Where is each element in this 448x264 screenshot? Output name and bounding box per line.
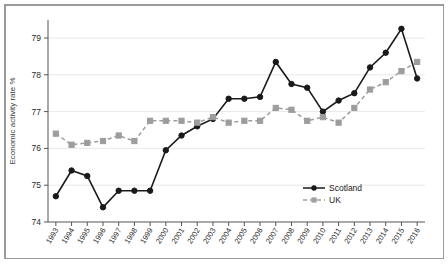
legend-marker-scotland xyxy=(311,185,316,190)
x-tick-label-2001: 2001 xyxy=(170,226,187,245)
x-tick-label-2013: 2013 xyxy=(358,226,375,245)
data-point-uk-2008 xyxy=(289,107,294,112)
data-point-uk-2015 xyxy=(399,69,404,74)
legend-item-uk[interactable]: UK xyxy=(303,195,341,205)
x-tick-label-2010: 2010 xyxy=(311,226,328,245)
data-point-scotland-2013 xyxy=(367,65,372,70)
data-point-scotland-1993 xyxy=(53,194,58,199)
x-tick-label-1995: 1995 xyxy=(75,226,92,245)
x-tick-label-2005: 2005 xyxy=(232,226,249,245)
data-point-scotland-2009 xyxy=(304,85,309,90)
data-point-uk-2014 xyxy=(383,80,388,85)
data-point-uk-1996 xyxy=(100,138,105,143)
data-point-scotland-2000 xyxy=(163,148,168,153)
data-point-uk-1995 xyxy=(85,140,90,145)
series-scotland xyxy=(53,26,420,210)
data-point-scotland-2014 xyxy=(383,50,388,55)
data-point-uk-2011 xyxy=(336,120,341,125)
data-point-scotland-2006 xyxy=(257,94,262,99)
x-tick-label-2015: 2015 xyxy=(390,226,407,245)
x-tick-label-1997: 1997 xyxy=(107,226,124,245)
data-point-scotland-2008 xyxy=(289,81,294,86)
data-point-scotland-2012 xyxy=(352,91,357,96)
line-chart: 747576777879Economic activity rate %1993… xyxy=(0,0,448,264)
data-point-uk-2004 xyxy=(226,120,231,125)
data-point-scotland-1996 xyxy=(100,205,105,210)
data-point-scotland-2010 xyxy=(320,109,325,114)
data-point-uk-2012 xyxy=(352,105,357,110)
data-point-uk-1999 xyxy=(148,118,153,123)
data-point-scotland-1998 xyxy=(132,188,137,193)
data-point-uk-2007 xyxy=(273,105,278,110)
chart-figure: 747576777879Economic activity rate %1993… xyxy=(0,0,448,264)
y-tick-label-74: 74 xyxy=(32,217,42,227)
data-point-scotland-2015 xyxy=(399,26,404,31)
data-point-scotland-2011 xyxy=(336,98,341,103)
y-axis: 747576777879 xyxy=(32,20,48,227)
data-point-scotland-2007 xyxy=(273,59,278,64)
data-point-scotland-1994 xyxy=(69,168,74,173)
data-point-uk-2003 xyxy=(210,115,215,120)
x-tick-label-2002: 2002 xyxy=(185,226,202,245)
x-tick-label-1993: 1993 xyxy=(44,226,61,245)
y-tick-label-76: 76 xyxy=(32,143,42,153)
data-point-uk-1998 xyxy=(132,138,137,143)
data-point-uk-2016 xyxy=(415,59,420,64)
series-line-uk xyxy=(56,62,417,145)
y-tick-label-79: 79 xyxy=(32,33,42,43)
data-point-scotland-2001 xyxy=(179,133,184,138)
x-tick-label-2007: 2007 xyxy=(264,226,281,245)
data-point-scotland-1995 xyxy=(85,173,90,178)
series-line-scotland xyxy=(56,29,417,207)
series-uk xyxy=(53,59,419,147)
legend-marker-uk xyxy=(311,197,316,202)
legend-item-scotland[interactable]: Scotland xyxy=(303,183,362,193)
data-point-uk-2006 xyxy=(257,118,262,123)
legend-label-uk: UK xyxy=(329,195,341,205)
x-tick-label-2003: 2003 xyxy=(201,226,218,245)
y-tick-label-75: 75 xyxy=(32,180,42,190)
x-tick-label-2004: 2004 xyxy=(217,226,234,245)
chart-legend: ScotlandUK xyxy=(303,183,362,205)
x-tick-label-2009: 2009 xyxy=(295,226,312,245)
x-axis: 1993199419951996199719981999200020012002… xyxy=(44,222,425,245)
x-tick-label-2014: 2014 xyxy=(374,226,391,245)
data-point-uk-2010 xyxy=(320,115,325,120)
data-point-uk-1997 xyxy=(116,133,121,138)
data-point-uk-2013 xyxy=(367,87,372,92)
y-tick-label-78: 78 xyxy=(32,70,42,80)
data-point-uk-1993 xyxy=(53,131,58,136)
data-point-scotland-2016 xyxy=(414,76,419,81)
data-point-scotland-2005 xyxy=(242,96,247,101)
data-point-uk-1994 xyxy=(69,142,74,147)
gridlines xyxy=(48,38,425,185)
data-point-scotland-2004 xyxy=(226,96,231,101)
data-point-uk-2005 xyxy=(242,118,247,123)
x-tick-label-2012: 2012 xyxy=(342,226,359,245)
x-tick-label-1996: 1996 xyxy=(91,226,108,245)
data-point-uk-2001 xyxy=(179,118,184,123)
x-tick-label-2016: 2016 xyxy=(405,226,422,245)
x-tick-label-2008: 2008 xyxy=(280,226,297,245)
x-tick-label-2011: 2011 xyxy=(327,226,343,245)
data-point-uk-2000 xyxy=(163,118,168,123)
data-point-uk-2002 xyxy=(195,120,200,125)
x-tick-label-1994: 1994 xyxy=(60,226,77,245)
legend-label-scotland: Scotland xyxy=(329,183,362,193)
y-axis-title: Economic activity rate % xyxy=(8,77,17,164)
x-tick-label-2006: 2006 xyxy=(248,226,265,245)
x-tick-label-2000: 2000 xyxy=(154,226,171,245)
data-point-scotland-1997 xyxy=(116,188,121,193)
data-point-uk-2009 xyxy=(305,118,310,123)
y-tick-label-77: 77 xyxy=(32,107,42,117)
x-tick-label-1998: 1998 xyxy=(123,226,140,245)
data-point-scotland-1999 xyxy=(147,188,152,193)
x-tick-label-1999: 1999 xyxy=(138,226,155,245)
